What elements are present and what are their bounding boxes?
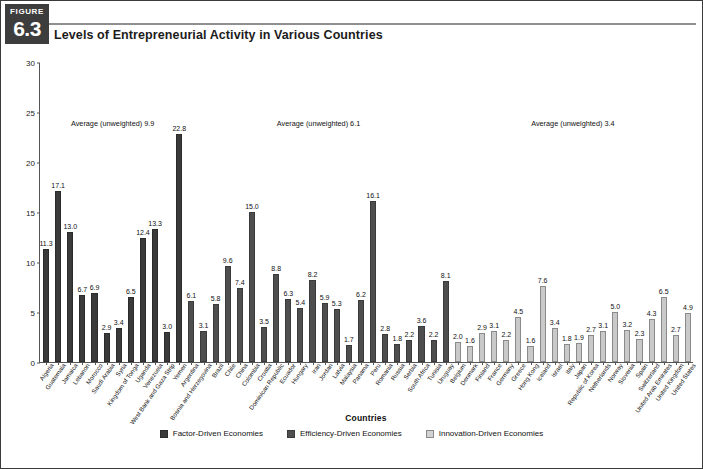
bar-value-label: 3.5 — [259, 318, 269, 325]
bar-guatemala[interactable] — [55, 191, 61, 362]
bar-israel[interactable] — [552, 328, 558, 362]
bar-iceland[interactable] — [540, 286, 546, 362]
figure-badge: FIGURE 6.3 — [5, 4, 49, 44]
bar-romania[interactable] — [382, 334, 388, 362]
bar-argentina[interactable] — [188, 301, 194, 362]
bar-greece[interactable] — [515, 317, 521, 362]
bar-value-label: 3.1 — [489, 322, 499, 329]
bar-denmark[interactable] — [467, 346, 473, 362]
bar-hong-kong[interactable] — [527, 346, 533, 362]
bar-uganda[interactable] — [140, 238, 146, 362]
bar-west-bank-and-gaza-strip[interactable] — [164, 332, 170, 362]
bar-uruguay[interactable] — [443, 281, 449, 362]
legend-item-innovation[interactable]: Innovation-Driven Economies — [426, 429, 544, 438]
bar-italy[interactable] — [564, 344, 570, 362]
x-axis-country-label: Israel — [549, 362, 563, 378]
bar-jamaica[interactable] — [67, 232, 73, 362]
bar-value-label: 3.4 — [550, 319, 560, 326]
y-axis-tick-mark — [37, 363, 40, 364]
bar-lebanon[interactable] — [79, 295, 85, 362]
bar-malaysia[interactable] — [346, 345, 352, 362]
bar-iran[interactable] — [309, 280, 315, 362]
figure-title: Levels of Entrepreneurial Activity in Va… — [54, 28, 383, 42]
bar-value-label: 5.9 — [320, 294, 330, 301]
bar-latvia[interactable] — [334, 309, 340, 362]
bar-republic-of-korea[interactable] — [588, 335, 594, 362]
bar-value-label: 6.2 — [356, 291, 366, 298]
legend-item-efficiency[interactable]: Efficiency-Driven Economies — [287, 429, 402, 438]
bar-finland[interactable] — [479, 333, 485, 362]
bar-value-label: 9.6 — [223, 257, 233, 264]
bar-value-label: 2.9 — [477, 324, 487, 331]
bar-united-kingdom[interactable] — [673, 335, 679, 362]
bar-slovenia[interactable] — [624, 330, 630, 362]
y-axis-tick-mark — [37, 263, 40, 264]
bar-saudi-arabia[interactable] — [104, 333, 110, 362]
legend-swatch-icon — [287, 430, 295, 438]
bar-value-label: 2.0 — [453, 333, 463, 340]
bar-norway[interactable] — [612, 312, 618, 362]
bar-bosnia-and-herzegovina[interactable] — [200, 331, 206, 362]
bar-value-label: 1.7 — [344, 336, 354, 343]
bar-value-label: 6.5 — [126, 288, 136, 295]
bar-france[interactable] — [491, 331, 497, 362]
bar-value-label: 1.8 — [562, 335, 572, 342]
y-axis-tick-mark — [37, 313, 40, 314]
bar-hungary[interactable] — [297, 308, 303, 362]
bar-value-label: 5.3 — [332, 300, 342, 307]
bar-value-label: 4.5 — [514, 308, 524, 315]
bar-croatia[interactable] — [261, 327, 267, 362]
bar-value-label: 2.3 — [635, 330, 645, 337]
bar-colombia[interactable] — [249, 212, 255, 362]
chart-legend: Factor-Driven EconomiesEfficiency-Driven… — [1, 429, 702, 438]
bar-spain[interactable] — [636, 339, 642, 362]
bar-chile[interactable] — [225, 266, 231, 362]
figure-page: FIGURE 6.3 Levels of Entrepreneurial Act… — [0, 0, 703, 469]
bar-serbia[interactable] — [406, 340, 412, 362]
legend-label: Efficiency-Driven Economies — [300, 429, 402, 438]
bar-south-africa[interactable] — [418, 326, 424, 362]
bar-ecuador[interactable] — [285, 299, 291, 362]
legend-swatch-icon — [426, 430, 434, 438]
bar-value-label: 3.6 — [417, 317, 427, 324]
bar-value-label: 2.9 — [102, 324, 112, 331]
bar-value-label: 3.4 — [114, 319, 124, 326]
bar-value-label: 12.4 — [136, 229, 150, 236]
bar-panama[interactable] — [358, 300, 364, 362]
bar-brazil[interactable] — [213, 304, 219, 362]
bar-value-label: 17.1 — [51, 182, 65, 189]
bar-value-label: 6.7 — [78, 286, 88, 293]
bar-morocco[interactable] — [91, 293, 97, 362]
bar-jordan[interactable] — [322, 303, 328, 362]
bar-algeria[interactable] — [43, 249, 49, 362]
plot-frame: 05101520253011.3Algeria17.1Guatemala13.0… — [39, 63, 693, 363]
plot-area: 05101520253011.3Algeria17.1Guatemala13.0… — [40, 63, 693, 362]
bar-germany[interactable] — [503, 340, 509, 362]
bar-value-label: 7.4 — [235, 279, 245, 286]
figure-badge-number: 6.3 — [5, 17, 49, 40]
y-axis-tick-mark — [37, 213, 40, 214]
bar-yemen[interactable] — [176, 134, 182, 362]
bar-japan[interactable] — [576, 343, 582, 362]
bar-china[interactable] — [237, 288, 243, 362]
bar-netherlands[interactable] — [600, 331, 606, 362]
bar-russia[interactable] — [394, 344, 400, 362]
bar-value-label: 2.7 — [671, 326, 681, 333]
legend-item-factor[interactable]: Factor-Driven Economies — [160, 429, 263, 438]
bar-belgium[interactable] — [455, 342, 461, 362]
bar-value-label: 4.9 — [683, 304, 693, 311]
bar-value-label: 7.6 — [538, 277, 548, 284]
y-axis-tick-mark — [37, 163, 40, 164]
bar-value-label: 15.0 — [245, 203, 259, 210]
bar-tunisia[interactable] — [431, 340, 437, 362]
bar-value-label: 5.4 — [296, 299, 306, 306]
bar-venezuela[interactable] — [152, 229, 158, 362]
bar-dominican-republic[interactable] — [273, 274, 279, 362]
bar-switzerland[interactable] — [649, 319, 655, 362]
bar-value-label: 6.3 — [283, 290, 293, 297]
bar-united-states[interactable] — [685, 313, 691, 362]
bar-peru[interactable] — [370, 201, 376, 362]
bar-united-arab-emirates[interactable] — [661, 297, 667, 362]
bar-kingdom-of-tonga[interactable] — [128, 297, 134, 362]
bar-syria[interactable] — [116, 328, 122, 362]
